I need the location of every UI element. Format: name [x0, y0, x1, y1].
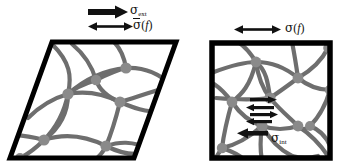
sigma-int-subscript: int — [279, 138, 286, 146]
panel-right: σ(f) — [186, 0, 354, 168]
internal-stress-arrow-stack — [246, 96, 278, 125]
sigma-f-bar-label: σ(f) — [133, 19, 153, 31]
sigma-f-bar-glyph: σ — [133, 18, 141, 32]
sigma-ext-label: σext — [130, 4, 147, 18]
left-panel-arrows — [0, 0, 186, 40]
sigma-f-bar-paren-close: ) — [149, 18, 153, 32]
sigma-int-glyph: σ — [271, 131, 279, 145]
right-cell-square — [186, 36, 354, 166]
sigma-f-paren-close: ) — [301, 21, 305, 35]
sigma-f-arrow-icon — [234, 25, 281, 33]
sigma-f-bar-arrow-icon — [88, 22, 133, 30]
sigma-int-label: σint — [271, 132, 287, 146]
sigma-ext-arrow-icon — [88, 6, 128, 19]
sigma-f-label: σ(f) — [285, 22, 305, 34]
sigma-ext-glyph: σ — [130, 3, 138, 17]
figure-root: σext σ(f) — [0, 0, 354, 168]
sigma-ext-subscript: ext — [138, 10, 147, 18]
left-cell-parallelogram — [0, 36, 186, 166]
sigma-f-glyph: σ — [285, 21, 293, 35]
panel-left: σext σ(f) — [0, 0, 186, 168]
